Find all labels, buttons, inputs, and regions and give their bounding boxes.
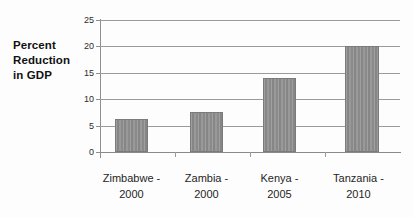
y-tick-label-20: 20 [68,42,94,51]
y-tick-label-10: 10 [68,95,94,104]
x-axis-label-tanzania-2010-line-1: Tanzania - [307,170,410,186]
bar-tanzania-2010 [345,46,379,152]
bar-chart: Percent Reduction in GDP 25 20 15 10 5 0 [0,0,414,217]
plot-area: 25 20 15 10 5 0 [100,20,400,152]
bar-zimbabwe-2000 [115,119,148,152]
y-tick-mark-10 [96,99,100,100]
bar-kenya-2005 [263,78,296,152]
y-tick-mark-15 [96,73,100,74]
y-tick-label-5: 5 [68,122,94,131]
bar-zambia-2000 [190,112,223,152]
x-axis-label-tanzania-2010-line-2: 2010 [307,186,410,202]
y-tick-label-15: 15 [68,69,94,78]
gridline-25 [100,20,400,21]
y-tick-mark-25 [96,20,100,21]
y-tick-label-25: 25 [68,16,94,25]
y-axis-title-line-2: Reduction [13,53,87,68]
category-separator-1 [175,152,176,157]
category-separator-2 [250,152,251,157]
y-tick-mark-20 [96,46,100,47]
x-axis-label-tanzania-2010: Tanzania - 2010 [307,170,410,202]
category-separator-3 [325,152,326,157]
y-tick-label-0: 0 [68,148,94,157]
y-tick-mark-5 [96,126,100,127]
